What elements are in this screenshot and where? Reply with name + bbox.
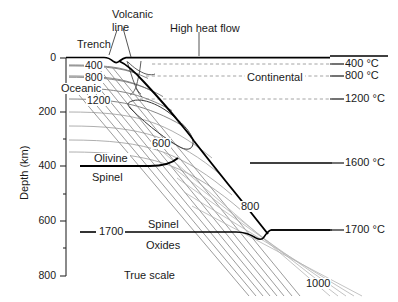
trench-label: Trench xyxy=(77,39,111,50)
right-label-800: 800 °C xyxy=(345,70,379,81)
diagram-canvas xyxy=(0,0,398,302)
spinel-lower-label: Spinel xyxy=(146,219,181,230)
slab-contour-6 xyxy=(86,82,263,296)
contour-label-slab-800: 800 xyxy=(240,201,260,212)
y-tick-label-600: 600 xyxy=(26,215,56,226)
true-scale-label: True scale xyxy=(124,270,175,281)
subduction-thermal-structure-figure: 0 200 400 600 800 Depth (km) Trench Volc… xyxy=(0,0,398,302)
slab-upper-surface-shallow xyxy=(119,61,194,141)
slab-contour-5 xyxy=(90,77,270,296)
y-tick-label-400: 400 xyxy=(26,160,56,171)
oxides-label: Oxides xyxy=(146,240,180,251)
volcanic-line-label-2: line xyxy=(112,22,129,33)
spinel-upper-label: Spinel xyxy=(92,172,123,183)
y-axis-title: Depth (km) xyxy=(18,146,30,200)
olivine-label: Olivine xyxy=(92,153,130,164)
volcanic-wedge-top xyxy=(128,62,155,75)
volcanic-line-label-1: Volcanic xyxy=(112,9,153,20)
slab-contour-2 xyxy=(106,68,292,296)
right-label-1700: 1700 °C xyxy=(345,224,385,235)
y-tick-label-800: 800 xyxy=(26,270,56,281)
contour-label-slab-600: 600 xyxy=(151,138,171,149)
right-label-1600: 1600 °C xyxy=(345,157,385,168)
contour-label-oceanic-400: 400 xyxy=(84,60,104,71)
contour-label-discontinuity-1700: 1700 xyxy=(97,226,125,237)
high-heat-flow-label: High heat flow xyxy=(170,23,240,34)
slab-contour-1 xyxy=(112,67,300,296)
continental-label: Continental xyxy=(245,72,305,83)
slab-contour-deep-5 xyxy=(192,206,362,296)
y-tick-label-0: 0 xyxy=(36,52,56,63)
slab-upper-surface-deep xyxy=(194,141,268,234)
slab-contour-7 xyxy=(82,88,256,296)
mantle-isotherm-b xyxy=(69,126,222,176)
surface-topography-line xyxy=(66,58,330,63)
contour-label-slab-1000: 1000 xyxy=(305,278,331,289)
right-label-400: 400 °C xyxy=(345,58,379,69)
contour-label-oceanic-800: 800 xyxy=(84,72,104,83)
slab-contour-bundle-deep xyxy=(163,152,362,296)
y-tick-label-200: 200 xyxy=(26,106,56,117)
right-label-1200: 1200 °C xyxy=(345,93,385,104)
oceanic-label: Oceanic xyxy=(60,83,102,94)
contour-label-oceanic-1200: 1200 xyxy=(86,95,111,106)
